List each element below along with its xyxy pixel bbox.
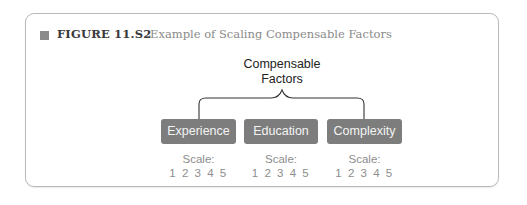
scale-label: Scale:	[327, 152, 402, 166]
scale-education: Scale: 1 2 3 4 5	[244, 152, 318, 180]
scale-label: Scale:	[244, 152, 318, 166]
scale-values: 1 2 3 4 5	[244, 166, 318, 180]
factor-box-complexity: Complexity	[327, 119, 402, 144]
scale-complexity: Scale: 1 2 3 4 5	[327, 152, 402, 180]
scale-experience: Scale: 1 2 3 4 5	[161, 152, 236, 180]
factor-box-education: Education	[244, 119, 318, 144]
factor-box-experience: Experience	[161, 119, 236, 144]
factor-label: Experience	[167, 124, 230, 138]
scale-values: 1 2 3 4 5	[161, 166, 236, 180]
scale-values: 1 2 3 4 5	[327, 166, 402, 180]
factor-label: Complexity	[334, 124, 396, 138]
factor-label: Education	[253, 124, 309, 138]
scale-label: Scale:	[161, 152, 236, 166]
